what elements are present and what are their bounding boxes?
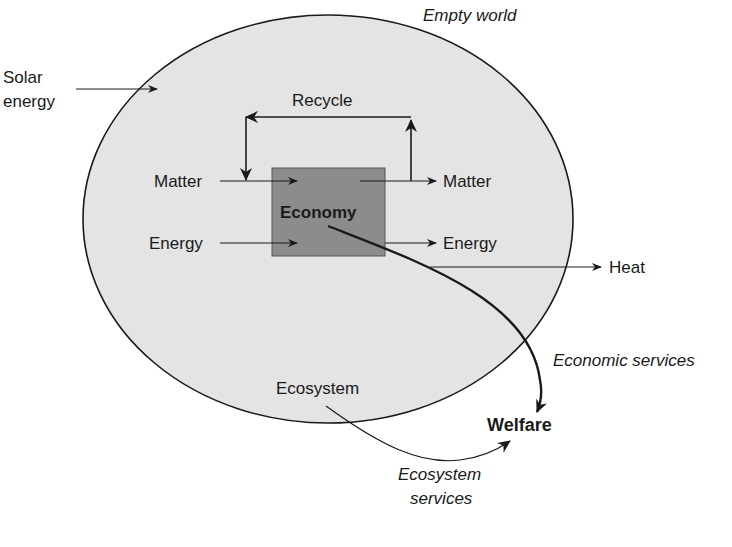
energy-out-label: Energy [443, 234, 497, 254]
diagram-canvas: Empty world Solar energy Recycle Matter … [0, 0, 732, 547]
heat-label: Heat [609, 258, 645, 278]
economic-services-label: Economic services [553, 351, 695, 371]
welfare-label: Welfare [487, 415, 552, 435]
energy-in-label: Energy [149, 234, 203, 254]
matter-out-label: Matter [443, 172, 491, 192]
ecosystem-label: Ecosystem [276, 379, 359, 399]
ecosystem-services-label-2: services [410, 489, 472, 509]
solar-energy-label-1: Solar [3, 68, 43, 88]
empty-world-text: Empty world [423, 6, 517, 25]
empty-world-label: Empty world [423, 6, 517, 26]
ecosystem-services-label-1: Ecosystem [398, 465, 481, 485]
solar-energy-label-2: energy [3, 92, 55, 112]
economy-label: Economy [280, 203, 357, 223]
recycle-label: Recycle [292, 91, 352, 111]
matter-in-label: Matter [154, 172, 202, 192]
